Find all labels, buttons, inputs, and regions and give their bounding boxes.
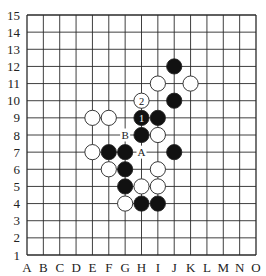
white-stone-E7 [85, 145, 100, 160]
column-label: K [186, 260, 196, 275]
row-label: 8 [14, 128, 21, 143]
white-stone-F6 [101, 162, 116, 177]
black-stone-G6 [118, 162, 133, 177]
column-label: E [88, 260, 96, 275]
column-label: L [203, 260, 211, 275]
white-stone-I5 [150, 179, 165, 194]
row-labels: 151413121110987654321 [7, 8, 21, 263]
column-label: O [251, 260, 260, 275]
column-label: H [137, 260, 146, 275]
row-label: 5 [14, 179, 21, 194]
row-label: 7 [14, 145, 21, 160]
black-stone-H8 [134, 127, 149, 142]
marker-B: B [121, 129, 128, 141]
row-label: 11 [7, 76, 20, 91]
row-label: 13 [7, 42, 20, 57]
black-stone-F7 [101, 145, 116, 160]
column-label: G [120, 260, 129, 275]
white-stone-G4 [118, 196, 133, 211]
column-label: F [105, 260, 112, 275]
white-stone-H5 [134, 179, 149, 194]
row-label: 1 [14, 248, 21, 263]
black-stone-H4 [134, 196, 149, 211]
row-label: 15 [7, 8, 20, 23]
black-stone-J12 [167, 59, 182, 74]
row-label: 3 [14, 213, 21, 228]
column-label: I [156, 260, 160, 275]
white-stone-K11 [183, 76, 198, 91]
white-stone-I11 [150, 76, 165, 91]
marker-A: A [138, 146, 146, 158]
white-stone-I6 [150, 162, 165, 177]
row-label: 12 [7, 59, 20, 74]
row-label: 10 [7, 93, 20, 108]
white-stone-E9 [85, 110, 100, 125]
gomoku-board: 151413121110987654321 ABCDEFGHIJKLMNO AB… [0, 0, 266, 276]
black-stone-G5 [118, 179, 133, 194]
move-number: 1 [139, 113, 144, 124]
row-label: 2 [14, 230, 21, 245]
black-stone-I9 [150, 110, 165, 125]
row-label: 6 [14, 162, 21, 177]
row-label: 9 [14, 110, 21, 125]
black-stone-J10 [167, 93, 182, 108]
move-number: 2 [139, 96, 144, 107]
column-label: M [218, 260, 230, 275]
column-label: C [55, 260, 64, 275]
column-label: N [235, 260, 245, 275]
black-stone-I4 [150, 196, 165, 211]
black-stone-G7 [118, 145, 133, 160]
black-stone-H9: 1 [134, 110, 149, 125]
column-label: A [22, 260, 32, 275]
column-label: D [71, 260, 80, 275]
white-stone-H10: 2 [134, 93, 149, 108]
black-stone-J7 [167, 145, 182, 160]
column-labels: ABCDEFGHIJKLMNO [22, 260, 260, 275]
row-label: 4 [14, 196, 21, 211]
white-stone-F9 [101, 110, 116, 125]
row-label: 14 [7, 25, 21, 40]
white-stone-I8 [150, 127, 165, 142]
column-label: B [39, 260, 48, 275]
column-label: J [172, 260, 177, 275]
